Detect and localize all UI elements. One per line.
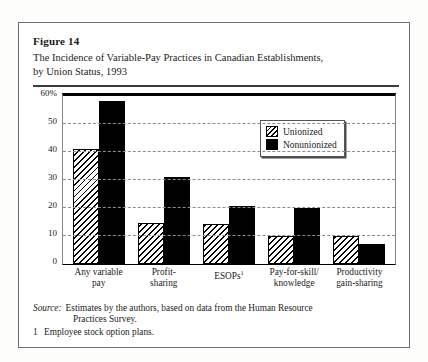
legend-swatch-nonunion-icon (266, 139, 278, 150)
y-axis-tick: 50 (48, 116, 57, 125)
gridline (63, 207, 395, 208)
source-note: Source: Estimates by the authors, based … (33, 303, 399, 315)
x-axis-label-line: sharing (131, 278, 196, 289)
x-axis-label-line: Pay-for-skill/ (262, 267, 327, 278)
x-axis-label-line: knowledge (262, 278, 327, 289)
x-axis-label: Productivitygain-sharing (327, 267, 392, 289)
figure-frame: Figure 14 The Incidence of Variable-Pay … (18, 22, 410, 348)
figure-page: Figure 14 The Incidence of Variable-Pay … (0, 0, 428, 362)
source-text-line-2: Practices Survey. (73, 314, 137, 326)
x-axis-label: Profit-sharing (131, 267, 196, 289)
bar-nonunion (359, 244, 385, 264)
figure-title-line-2: by Union Status, 1993 (33, 65, 399, 79)
gridline (63, 235, 395, 236)
bar-union (203, 224, 229, 263)
x-axis-label-line: pay (66, 278, 131, 289)
bar-nonunion (294, 208, 320, 264)
figure-content: Figure 14 The Incidence of Variable-Pay … (33, 31, 399, 343)
source-label: Source: (33, 303, 62, 315)
x-axis-label-line: Profit- (131, 267, 196, 278)
y-axis-tick: 40 (48, 144, 57, 153)
bar-chart: 60%50403020100 UnionizedNonunionized Any… (33, 93, 399, 273)
footnote-text: Employee stock option plans. (44, 327, 154, 337)
source-note-continued: Practices Survey. (33, 314, 399, 326)
y-axis-tick: 10 (48, 228, 57, 237)
x-axis-label-line: ESOPs1 (196, 267, 261, 282)
gridline (63, 123, 395, 124)
footnote: 1 Employee stock option plans. (33, 327, 399, 339)
y-axis-tick: 30 (48, 172, 57, 181)
x-axis-label-line: gain-sharing (327, 278, 392, 289)
x-axis-label: Pay-for-skill/knowledge (262, 267, 327, 289)
bar-group (67, 96, 132, 264)
footnote-marker: 1 (241, 269, 244, 276)
legend-label: Nonunionized (283, 139, 337, 151)
y-axis: 60%50403020100 (33, 93, 59, 265)
x-axis-label: Any variablepay (66, 267, 131, 289)
figure-title-line-1: The Incidence of Variable-Pay Practices … (33, 51, 399, 65)
x-axis-label-line: Any variable (66, 267, 131, 278)
bar-group (197, 96, 262, 264)
bar-nonunion (99, 101, 125, 263)
bar-union (138, 223, 164, 264)
x-axis-labels: Any variablepayProfit-sharingESOPs1Pay-f… (62, 267, 396, 289)
figure-footer: Source: Estimates by the authors, based … (33, 303, 399, 339)
plot-area: UnionizedNonunionized (62, 93, 396, 265)
bar-union (268, 236, 294, 264)
source-text-line-1: Estimates by the authors, based on data … (66, 303, 313, 315)
legend-item: Nonunionized (266, 139, 337, 151)
figure-label: Figure 14 (33, 35, 399, 47)
title-divider (33, 85, 399, 87)
x-axis-label-line: Productivity (327, 267, 392, 278)
gridline (63, 179, 395, 180)
bar-union (333, 236, 359, 264)
y-axis-tick: 20 (48, 200, 57, 209)
bar-groups (63, 96, 395, 264)
x-axis-label: ESOPs1 (196, 267, 261, 289)
legend-swatch-union-icon (266, 126, 278, 137)
legend-label: Unionized (283, 126, 323, 138)
y-axis-tick: 0 (53, 256, 58, 265)
bar-group (132, 96, 197, 264)
legend-item: Unionized (266, 126, 337, 138)
bar-nonunion (164, 177, 190, 264)
gridline (63, 151, 395, 152)
y-axis-tick: 60% (41, 88, 58, 97)
footnote-number: 1 (33, 327, 38, 337)
